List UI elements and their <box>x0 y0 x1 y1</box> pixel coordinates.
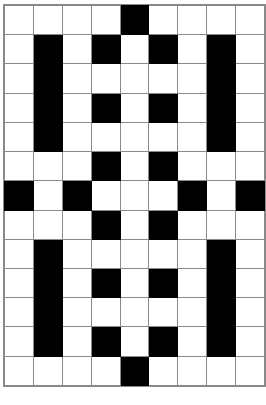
grid-cell <box>207 6 236 35</box>
grid-cell <box>33 239 62 268</box>
grid-cell <box>149 181 178 210</box>
grid-cell <box>5 327 34 356</box>
grid-cell <box>33 356 62 385</box>
grid-cell <box>91 64 120 93</box>
grid-cell <box>236 239 265 268</box>
grid-cell <box>149 152 178 181</box>
grid-cell <box>91 6 120 35</box>
grid-cell <box>236 93 265 122</box>
grid-row <box>5 210 265 239</box>
grid-cell <box>62 298 91 327</box>
grid-cell <box>33 122 62 151</box>
grid-cell <box>62 181 91 210</box>
grid-cell <box>120 356 149 385</box>
grid-cell <box>91 122 120 151</box>
grid-row <box>5 268 265 297</box>
grid-cell <box>120 239 149 268</box>
grid-cell <box>5 356 34 385</box>
grid-cell <box>207 64 236 93</box>
grid-cell <box>62 210 91 239</box>
grid-cell <box>62 356 91 385</box>
grid-cell <box>5 181 34 210</box>
grid-cell <box>149 268 178 297</box>
grid-cell <box>236 327 265 356</box>
grid-cell <box>149 210 178 239</box>
grid-cell <box>33 6 62 35</box>
grid-cell <box>5 35 34 64</box>
grid-cell <box>178 181 207 210</box>
grid-row <box>5 6 265 35</box>
grid-cell <box>120 64 149 93</box>
grid-cell <box>236 64 265 93</box>
grid-cell <box>5 6 34 35</box>
grid-cell <box>5 93 34 122</box>
grid-cell <box>149 239 178 268</box>
grid-cell <box>207 152 236 181</box>
grid-cell <box>236 152 265 181</box>
grid-cell <box>178 64 207 93</box>
grid-row <box>5 64 265 93</box>
grid-row <box>5 298 265 327</box>
grid-cell <box>33 268 62 297</box>
grid-cell <box>178 298 207 327</box>
grid-cell <box>178 93 207 122</box>
grid-cell <box>91 268 120 297</box>
grid-row <box>5 35 265 64</box>
grid-cell <box>207 356 236 385</box>
grid-cell <box>149 93 178 122</box>
grid-cell <box>149 122 178 151</box>
grid-row <box>5 327 265 356</box>
grid-cell <box>5 239 34 268</box>
grid-cell <box>236 356 265 385</box>
grid-cell <box>120 93 149 122</box>
grid-cell <box>91 356 120 385</box>
grid-row <box>5 239 265 268</box>
binary-grid-figure <box>0 0 264 405</box>
grid-cell <box>178 35 207 64</box>
grid-cell <box>236 181 265 210</box>
grid-cell <box>62 268 91 297</box>
grid-cell <box>120 268 149 297</box>
grid-cell <box>120 298 149 327</box>
grid-cell <box>149 35 178 64</box>
grid-cell <box>149 327 178 356</box>
grid-cell <box>33 327 62 356</box>
grid-cell <box>236 268 265 297</box>
grid-cell <box>33 64 62 93</box>
grid-cell <box>62 239 91 268</box>
grid-cell <box>62 93 91 122</box>
grid-cell <box>236 122 265 151</box>
grid-cell <box>207 35 236 64</box>
grid-cell <box>5 268 34 297</box>
grid-row <box>5 181 265 210</box>
grid-cell <box>120 122 149 151</box>
grid-cell <box>62 64 91 93</box>
grid-cell <box>149 6 178 35</box>
grid-cell <box>91 35 120 64</box>
grid-cell <box>62 152 91 181</box>
grid-cell <box>207 268 236 297</box>
grid-cell <box>178 122 207 151</box>
grid-cell <box>33 35 62 64</box>
grid-table <box>4 5 264 386</box>
grid-cell <box>91 327 120 356</box>
grid-cell <box>91 298 120 327</box>
grid-cell <box>5 210 34 239</box>
grid-cell <box>33 298 62 327</box>
grid-cell <box>207 210 236 239</box>
grid-cell <box>120 152 149 181</box>
grid-cell <box>236 35 265 64</box>
grid-cell <box>178 6 207 35</box>
grid-cell <box>33 181 62 210</box>
grid-cell <box>120 35 149 64</box>
grid-cell <box>5 122 34 151</box>
grid-cell <box>62 122 91 151</box>
grid-cell <box>207 122 236 151</box>
grid-cell <box>120 210 149 239</box>
grid-cell <box>178 152 207 181</box>
grid-cell <box>120 181 149 210</box>
grid-cell <box>207 181 236 210</box>
grid-row <box>5 122 265 151</box>
grid-cell <box>62 327 91 356</box>
grid-cell <box>62 6 91 35</box>
